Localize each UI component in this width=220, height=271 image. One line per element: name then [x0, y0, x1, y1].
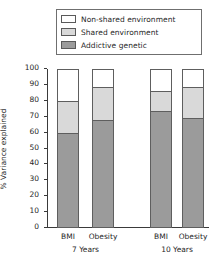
bar-obesity-10-years — [182, 69, 204, 228]
segment-addictive-genetic — [58, 133, 78, 227]
segment-non-shared-environment — [151, 70, 171, 91]
segment-shared-environment — [151, 91, 171, 111]
segment-addictive-genetic — [93, 120, 113, 227]
x-tick-label-bmi-10-years: BMI — [154, 232, 168, 241]
segment-non-shared-environment — [58, 70, 78, 101]
y-tick-label-70: 70 — [29, 112, 39, 120]
y-tick-label-40: 40 — [29, 159, 39, 167]
legend-item-non-shared-environment: Non-shared environment — [61, 13, 197, 25]
plot-area: 1009080706050403020100 — [47, 69, 209, 228]
y-tick-label-80: 80 — [29, 96, 39, 104]
y-tick-label-50: 50 — [29, 144, 39, 152]
legend-label-addictive-genetic: Addictive genetic — [81, 41, 147, 50]
y-tick-label-100: 100 — [25, 64, 39, 72]
y-tick-30: 30 — [44, 179, 47, 180]
bar-obesity-7-years — [92, 69, 114, 228]
y-tick-label-20: 20 — [29, 191, 39, 199]
y-tick-label-0: 0 — [34, 223, 39, 231]
legend-swatch-non-shared-environment — [61, 15, 76, 23]
segment-non-shared-environment — [93, 70, 113, 87]
y-tick-10: 10 — [44, 211, 47, 212]
segment-shared-environment — [183, 87, 203, 118]
y-axis-label: % Variance explained — [0, 108, 8, 189]
bar-bmi-10-years — [150, 69, 172, 228]
y-tick-20: 20 — [44, 195, 47, 196]
segment-addictive-genetic — [183, 118, 203, 227]
segment-shared-environment — [93, 87, 113, 120]
y-tick-label-10: 10 — [29, 207, 39, 215]
chart-legend: Non-shared environment Shared environmen… — [56, 9, 202, 55]
y-axis-label-container: % Variance explained — [14, 69, 26, 228]
legend-item-addictive-genetic: Addictive genetic — [61, 39, 197, 51]
y-tick-label-60: 60 — [29, 128, 39, 136]
y-axis-line — [47, 69, 48, 228]
legend-label-shared-environment: Shared environment — [81, 28, 158, 37]
stacked-bar-chart-figure: Non-shared environment Shared environmen… — [0, 0, 220, 271]
y-tick-0: 0 — [44, 227, 47, 228]
x-group-label-10-years: 10 Years — [161, 245, 193, 254]
y-tick-100: 100 — [44, 68, 47, 69]
legend-swatch-addictive-genetic — [61, 41, 76, 49]
segment-shared-environment — [58, 101, 78, 133]
y-tick-40: 40 — [44, 163, 47, 164]
x-tick-label-obesity-10-years: Obesity — [179, 232, 208, 241]
legend-swatch-shared-environment — [61, 28, 76, 36]
legend-label-non-shared-environment: Non-shared environment — [81, 15, 175, 24]
y-tick-label-30: 30 — [29, 175, 39, 183]
y-tick-80: 80 — [44, 100, 47, 101]
y-tick-70: 70 — [44, 116, 47, 117]
x-group-label-7-years: 7 Years — [72, 245, 99, 254]
y-tick-label-90: 90 — [29, 80, 39, 88]
y-tick-90: 90 — [44, 84, 47, 85]
y-tick-60: 60 — [44, 132, 47, 133]
segment-addictive-genetic — [151, 111, 171, 227]
x-tick-label-bmi-7-years: BMI — [61, 232, 75, 241]
segment-non-shared-environment — [183, 70, 203, 87]
x-tick-label-obesity-7-years: Obesity — [89, 232, 118, 241]
legend-item-shared-environment: Shared environment — [61, 26, 197, 38]
bar-bmi-7-years — [57, 69, 79, 228]
y-tick-50: 50 — [44, 148, 47, 149]
